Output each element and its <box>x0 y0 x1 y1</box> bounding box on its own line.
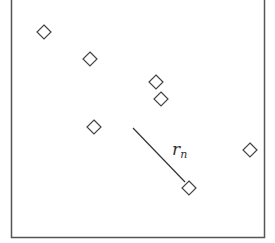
diamond-marker-1 <box>37 25 51 39</box>
diagram-frame <box>12 0 265 238</box>
diamond-marker-7 <box>182 181 196 195</box>
diagram-canvas: rn <box>0 0 275 243</box>
diamond-marker-2 <box>83 52 97 66</box>
diamond-marker-5 <box>87 120 101 134</box>
diamond-marker-6 <box>243 143 257 157</box>
radius-label: rn <box>172 139 187 161</box>
diamond-marker-4 <box>154 92 168 106</box>
radius-label-subscript: n <box>180 148 187 161</box>
diamond-marker-3 <box>149 75 163 89</box>
point-markers <box>37 25 257 195</box>
